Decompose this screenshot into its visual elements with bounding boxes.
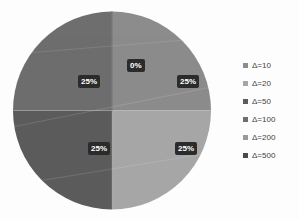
data-label-bottom-left: 25% xyxy=(88,142,110,155)
data-label-top-right: 25% xyxy=(177,75,199,88)
data-label-bottom-right: 25% xyxy=(175,142,197,155)
legend-item[interactable]: Δ=200 xyxy=(243,128,299,146)
legend-item[interactable]: Δ=20 xyxy=(243,74,299,92)
legend-swatch-icon xyxy=(243,99,248,104)
legend-item-label: Δ=100 xyxy=(252,115,275,124)
pie-chart-figure: 0% 25% 25% 25% 25% Δ=10Δ=20Δ=50Δ=100Δ=20… xyxy=(0,0,299,220)
pie-chart-svg xyxy=(12,11,212,210)
legend-swatch-icon xyxy=(243,63,248,68)
pie-slice-top-left[interactable] xyxy=(13,12,112,111)
chart-legend: Δ=10Δ=20Δ=50Δ=100Δ=200Δ=500 xyxy=(243,56,299,164)
legend-swatch-icon xyxy=(243,135,248,140)
pie-slice-bottom-right[interactable] xyxy=(112,111,211,210)
pie-chart-plot-area: 0% 25% 25% 25% 25% xyxy=(12,11,212,210)
legend-item[interactable]: Δ=500 xyxy=(243,146,299,164)
data-label-top-left: 25% xyxy=(78,75,100,88)
legend-item-label: Δ=200 xyxy=(252,133,275,142)
legend-item-label: Δ=10 xyxy=(252,61,271,70)
legend-swatch-icon xyxy=(243,81,248,86)
pie-slice-bottom-left[interactable] xyxy=(13,111,112,210)
data-label-zero: 0% xyxy=(127,59,145,72)
legend-swatch-icon xyxy=(243,117,248,122)
legend-swatch-icon xyxy=(243,153,248,158)
legend-item[interactable]: Δ=50 xyxy=(243,92,299,110)
legend-item[interactable]: Δ=100 xyxy=(243,110,299,128)
legend-item-label: Δ=20 xyxy=(252,79,271,88)
legend-item-label: Δ=500 xyxy=(252,151,275,160)
legend-item[interactable]: Δ=10 xyxy=(243,56,299,74)
legend-item-label: Δ=50 xyxy=(252,97,271,106)
